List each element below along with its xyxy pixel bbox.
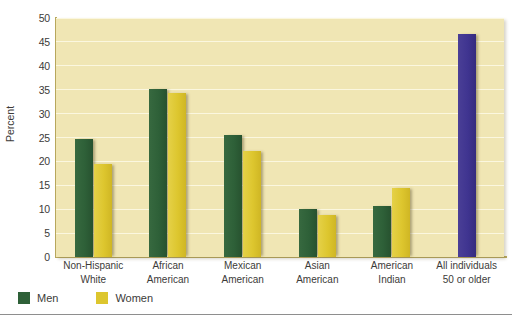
x-axis-label-line: Mexican	[205, 259, 280, 273]
bar-women	[318, 215, 336, 257]
x-axis-category-label: AsianAmerican	[280, 259, 355, 286]
x-axis-label-line: Asian	[280, 259, 355, 273]
y-axis-tick-label: 0	[4, 252, 50, 262]
x-axis-category-label: All individuals50 or older	[429, 259, 504, 286]
x-axis-label-line: 50 or older	[429, 273, 504, 287]
x-axis-label-line: American	[280, 273, 355, 287]
chart-legend: MenWomen	[18, 292, 191, 304]
y-axis-tick-label: 40	[4, 61, 50, 71]
bottom-divider	[0, 314, 512, 315]
bar-group	[429, 18, 504, 257]
plot-area	[56, 18, 504, 257]
bar-group	[131, 18, 206, 257]
x-axis-category-label: AfricanAmerican	[131, 259, 206, 286]
x-axis-labels: Non-HispanicWhiteAfricanAmericanMexicanA…	[56, 259, 504, 295]
bar-men	[75, 139, 93, 257]
x-axis-category-label: MexicanAmerican	[205, 259, 280, 286]
bar-men	[299, 209, 317, 257]
y-axis-tick-label: 45	[4, 37, 50, 47]
x-axis-label-line: Non-Hispanic	[56, 259, 131, 273]
bar-group	[280, 18, 355, 257]
x-axis-label-line: American	[205, 273, 280, 287]
bar-men	[224, 135, 242, 257]
x-axis-label-line: White	[56, 273, 131, 287]
legend-label: Women	[115, 292, 153, 304]
bar-group	[205, 18, 280, 257]
y-axis-tick-label: 15	[4, 180, 50, 190]
bar-men	[373, 206, 391, 257]
bar-men	[149, 89, 167, 257]
x-axis-label-line: African	[131, 259, 206, 273]
bar-women	[392, 188, 410, 257]
legend-swatch-men	[18, 292, 30, 304]
y-axis-tick-label: 30	[4, 109, 50, 119]
y-axis-tick-label: 25	[4, 133, 50, 143]
x-axis-category-label: AmericanIndian	[355, 259, 430, 286]
x-axis-label-line: American	[355, 259, 430, 273]
x-axis-label-line: American	[131, 273, 206, 287]
y-axis-tick-label: 50	[4, 13, 50, 23]
bar-women	[243, 151, 261, 257]
chart-figure: Percent 50454035302520151050 Non-Hispani…	[0, 0, 512, 316]
bar-group	[56, 18, 131, 257]
legend-label: Men	[37, 292, 58, 304]
bar-women	[168, 93, 186, 257]
legend-item: Men	[18, 292, 58, 304]
bar-group	[355, 18, 430, 257]
y-axis-tick-label: 10	[4, 204, 50, 214]
legend-item: Women	[96, 292, 153, 304]
x-axis-label-line: All individuals	[429, 259, 504, 273]
bar-all	[458, 34, 476, 257]
y-axis-tick-label: 35	[4, 85, 50, 95]
bar-women	[94, 164, 112, 257]
y-axis-ticks: 50454035302520151050	[0, 18, 50, 257]
x-axis-label-line: Indian	[355, 273, 430, 287]
y-axis-tick-label: 5	[4, 228, 50, 238]
legend-swatch-women	[96, 292, 108, 304]
y-axis-tick-label: 20	[4, 156, 50, 166]
x-axis-category-label: Non-HispanicWhite	[56, 259, 131, 286]
